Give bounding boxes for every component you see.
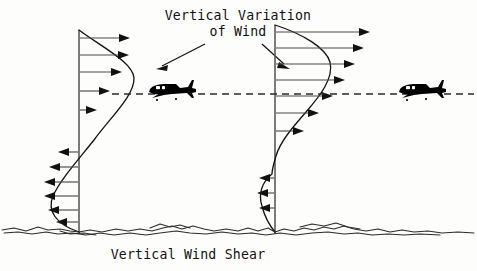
left-upper-wind-arrows — [80, 34, 130, 114]
wind-arrow — [80, 51, 129, 59]
wind-arrow — [276, 28, 370, 36]
wind-arrow — [80, 87, 110, 95]
right-upper-wind-arrows — [276, 28, 370, 135]
figure-caption: Vertical Wind Shear — [111, 247, 266, 262]
wind-arrow — [276, 44, 364, 52]
right-wind-profile-panel — [257, 25, 370, 234]
figure-title-line2: of Wind — [210, 24, 267, 39]
wind-arrow — [276, 92, 333, 100]
left-wind-profile-panel — [44, 30, 134, 234]
wind-arrow — [44, 192, 78, 200]
left-lower-wind-arrows — [44, 148, 78, 226]
wind-arrow — [56, 218, 78, 226]
wind-arrow — [44, 178, 78, 186]
wind-arrow — [276, 76, 345, 84]
wind-arrow — [80, 106, 97, 114]
left-profile-curve — [51, 30, 134, 232]
vertical-wind-shear-figure: Vertical Variation of Wind — [0, 0, 477, 271]
wind-arrow — [276, 60, 355, 68]
aircraft-right — [399, 80, 446, 101]
wind-arrow — [58, 148, 78, 156]
wind-arrow — [80, 68, 122, 76]
figure-title-line1: Vertical Variation — [165, 8, 312, 23]
callout-arrow-left — [156, 44, 205, 71]
wind-arrow — [80, 34, 130, 42]
wind-arrow — [276, 109, 319, 117]
aircraft-left — [149, 80, 196, 101]
wind-arrow — [276, 127, 304, 135]
wind-arrow — [259, 174, 274, 182]
diagram-canvas: Vertical Variation of Wind — [0, 0, 477, 271]
right-lower-wind-arrows — [257, 174, 274, 212]
wind-arrow — [257, 189, 274, 197]
